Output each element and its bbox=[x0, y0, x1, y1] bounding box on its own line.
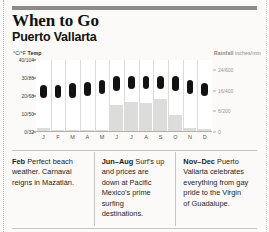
temperature-bar bbox=[201, 83, 207, 96]
temperature-tick-mark bbox=[33, 132, 36, 133]
month-gridline bbox=[80, 60, 81, 132]
temperature-bar bbox=[157, 76, 163, 89]
seasonal-note: Nov–Dec Puerto Vallarta celebrates every… bbox=[175, 152, 257, 226]
month-tick-label: O bbox=[173, 134, 177, 140]
month-tick-label: J bbox=[130, 134, 133, 140]
page-left-margin-rule bbox=[3, 0, 5, 232]
temperature-bar bbox=[55, 85, 61, 98]
seasonal-note: Jun–Aug Surf's up and prices are down at… bbox=[94, 152, 176, 226]
month-tick-label: S bbox=[159, 134, 163, 140]
temperature-tick-mark bbox=[33, 78, 36, 79]
rain-axis-caption: Rainfall inches/mm bbox=[214, 50, 261, 56]
month-tick-label: M bbox=[70, 134, 75, 140]
month-tick-label: A bbox=[144, 134, 148, 140]
header-rule bbox=[12, 6, 257, 10]
temperature-tick-mark bbox=[33, 96, 36, 97]
temperature-bar bbox=[113, 76, 119, 90]
temperature-bar bbox=[187, 80, 193, 94]
climate-chart: 0/3210/5020/6830/8640/104 08/20016/40024… bbox=[36, 60, 212, 132]
rainfall-tick-mark bbox=[213, 90, 216, 91]
temperature-bar bbox=[69, 83, 75, 97]
month-gridline bbox=[183, 60, 184, 132]
rainfall-tick-mark bbox=[213, 111, 216, 112]
footer-rule bbox=[12, 228, 257, 229]
rainfall-tick-label: 24/600 bbox=[218, 67, 233, 73]
month-tick-label: M bbox=[100, 134, 105, 140]
month-gridline bbox=[197, 60, 198, 132]
temperature-bar bbox=[172, 76, 178, 90]
temperature-bar bbox=[99, 80, 105, 94]
temperature-tick-mark bbox=[33, 60, 36, 61]
seasonal-note-period: Jun–Aug bbox=[102, 157, 134, 166]
temperature-bar bbox=[40, 85, 46, 98]
seasonal-notes: Feb Perfect beach weather. Carnaval reig… bbox=[12, 152, 257, 226]
month-gridline bbox=[65, 60, 66, 132]
rainfall-bar bbox=[110, 105, 123, 131]
rain-axis-unit: inches/mm bbox=[235, 50, 261, 56]
seasonal-note-period: Feb bbox=[12, 157, 25, 166]
month-tick-label: J bbox=[42, 134, 45, 140]
rainfall-bar bbox=[125, 102, 138, 131]
rainfall-tick-mark bbox=[213, 70, 216, 71]
page-right-margin-rule bbox=[266, 0, 268, 232]
temp-axis-label: Temp bbox=[28, 50, 42, 56]
temp-axis-caption: °C/°F Temp bbox=[13, 50, 41, 56]
axis-baseline bbox=[36, 131, 212, 132]
rainfall-tick-mark bbox=[213, 132, 216, 133]
month-tick-label: N bbox=[188, 134, 192, 140]
seasonal-note: Feb Perfect beach weather. Carnaval reig… bbox=[12, 152, 94, 226]
temperature-tick-mark bbox=[33, 114, 36, 115]
rainfall-bar bbox=[140, 103, 153, 131]
rainfall-tick-label: 8/200 bbox=[218, 108, 231, 114]
month-gridline bbox=[51, 60, 52, 132]
temperature-bar bbox=[128, 76, 134, 89]
temperature-bar bbox=[143, 76, 149, 89]
temp-axis-unit: °C/°F bbox=[13, 50, 28, 56]
temperature-tick-label: 40/104 bbox=[19, 57, 34, 63]
month-tick-label: J bbox=[115, 134, 118, 140]
rainfall-bar bbox=[169, 115, 182, 131]
seasonal-note-period: Nov–Dec bbox=[183, 157, 215, 166]
rainfall-tick-label: 0 bbox=[218, 129, 221, 135]
month-tick-label: A bbox=[85, 134, 89, 140]
seasonal-note-text: Surf's up and prices are down at Pacific… bbox=[102, 157, 165, 218]
page-subtitle: Puerto Vallarta bbox=[12, 30, 97, 44]
temperature-bar bbox=[84, 82, 90, 96]
page-title: When to Go bbox=[12, 11, 99, 31]
rainfall-bar bbox=[154, 99, 167, 131]
rain-axis-label: Rainfall bbox=[214, 50, 235, 56]
month-tick-label: D bbox=[203, 134, 207, 140]
month-gridline bbox=[95, 60, 96, 132]
month-tick-label: F bbox=[56, 134, 59, 140]
rainfall-tick-label: 16/400 bbox=[218, 88, 233, 94]
